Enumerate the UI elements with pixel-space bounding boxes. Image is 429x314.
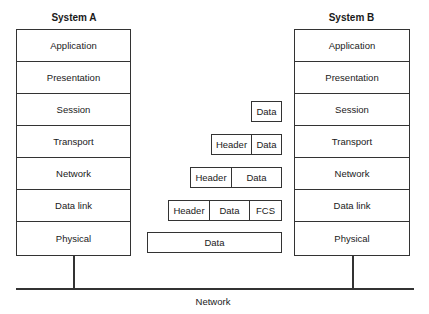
physical-data-segment: Data bbox=[148, 233, 281, 252]
network-pdu: Header Data bbox=[190, 167, 282, 188]
transport-pdu: Header Data bbox=[211, 134, 282, 155]
physical-pdu: Data bbox=[147, 232, 282, 253]
system-a-layer-presentation: Presentation bbox=[17, 62, 130, 94]
system-a-layer-session: Session bbox=[17, 94, 130, 126]
session-data-segment: Data bbox=[252, 102, 281, 121]
transport-data-segment: Data bbox=[252, 135, 281, 154]
network-header-segment: Header bbox=[191, 168, 232, 187]
system-a-layer-network: Network bbox=[17, 158, 130, 190]
system-b-layer-physical: Physical bbox=[295, 222, 409, 254]
data-link-pdu: Header Data FCS bbox=[168, 200, 282, 221]
system-a-layer-transport: Transport bbox=[17, 126, 130, 158]
network-data-segment: Data bbox=[232, 168, 281, 187]
system-b-layer-data-link: Data link bbox=[295, 190, 409, 222]
system-a-layer-physical: Physical bbox=[17, 222, 130, 254]
system-a-stack: Application Presentation Session Transpo… bbox=[16, 29, 131, 256]
data-link-data-segment: Data bbox=[210, 201, 250, 220]
system-b-connector bbox=[352, 256, 354, 289]
system-b-title: System B bbox=[294, 12, 409, 23]
network-line bbox=[16, 288, 414, 290]
system-b-layer-presentation: Presentation bbox=[295, 62, 409, 94]
system-b-layer-network: Network bbox=[295, 158, 409, 190]
system-b-layer-application: Application bbox=[295, 30, 409, 62]
system-b-layer-session: Session bbox=[295, 94, 409, 126]
session-pdu: Data bbox=[251, 101, 282, 122]
system-a-title: System A bbox=[17, 12, 131, 23]
data-link-header-segment: Header bbox=[169, 201, 210, 220]
system-a-layer-application: Application bbox=[17, 30, 130, 62]
system-a-connector bbox=[73, 256, 75, 289]
system-b-layer-transport: Transport bbox=[295, 126, 409, 158]
system-b-stack: Application Presentation Session Transpo… bbox=[294, 29, 410, 256]
data-link-fcs-segment: FCS bbox=[250, 201, 281, 220]
transport-header-segment: Header bbox=[212, 135, 252, 154]
system-a-layer-data-link: Data link bbox=[17, 190, 130, 222]
network-label: Network bbox=[183, 296, 243, 307]
